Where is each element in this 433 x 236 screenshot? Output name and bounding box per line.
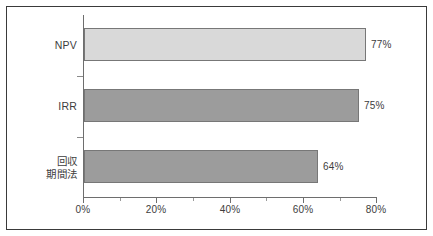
x-axis-label-80: 80% bbox=[366, 204, 387, 215]
x-tick-minor-50 bbox=[266, 198, 267, 201]
category-label-payback-line1: 回収 bbox=[11, 155, 77, 168]
category-label-npv: NPV bbox=[11, 39, 77, 52]
x-tick-minor-30 bbox=[193, 198, 194, 201]
chart-frame: 0% 20% 40% 60% 80% NPV IRR 回収 期間法 77% 75… bbox=[6, 6, 427, 230]
bar-irr bbox=[84, 89, 359, 122]
category-label-payback-line2: 期間法 bbox=[11, 168, 77, 181]
x-tick-20 bbox=[156, 198, 157, 203]
category-label-irr: IRR bbox=[11, 100, 77, 113]
x-tick-minor-70 bbox=[340, 198, 341, 201]
bar-payback bbox=[84, 150, 318, 183]
bar-value-npv: 77% bbox=[371, 39, 392, 50]
bar-value-payback: 64% bbox=[323, 161, 344, 172]
plot-area: 0% 20% 40% 60% 80% NPV IRR 回収 期間法 77% 75… bbox=[7, 7, 426, 229]
x-tick-60 bbox=[303, 198, 304, 203]
category-label-npv-text: NPV bbox=[11, 39, 77, 52]
x-tick-0 bbox=[83, 198, 84, 203]
x-tick-80 bbox=[376, 198, 377, 203]
x-axis-label-20: 20% bbox=[146, 204, 167, 215]
category-label-irr-text: IRR bbox=[11, 100, 77, 113]
category-label-payback: 回収 期間法 bbox=[11, 155, 77, 180]
x-axis-label-40: 40% bbox=[220, 204, 241, 215]
bar-npv bbox=[84, 28, 366, 61]
x-axis-label-0: 0% bbox=[76, 204, 91, 215]
y-axis-tick-1 bbox=[77, 76, 83, 77]
y-axis-tick-2 bbox=[77, 137, 83, 138]
bar-value-irr: 75% bbox=[364, 100, 385, 111]
x-tick-minor-10 bbox=[120, 198, 121, 201]
x-axis-label-60: 60% bbox=[293, 204, 314, 215]
x-tick-40 bbox=[230, 198, 231, 203]
